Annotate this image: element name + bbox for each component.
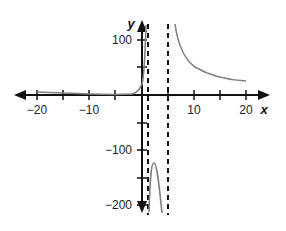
y-tick-label-100: 100 [112, 33, 132, 47]
x-tick-label-neg20: −20 [27, 103, 48, 117]
y-axis-down-arrow-icon [137, 201, 147, 213]
curve-middle-branch [149, 163, 162, 213]
x-axis-right-arrow-icon [258, 90, 270, 100]
rational-function-graph: −20 −10 10 20 x y 100 −100 −200 [0, 0, 286, 231]
y-axis: y 100 −100 −200 [105, 16, 147, 213]
y-tick-label-neg200: −200 [105, 198, 132, 212]
x-axis-label: x [259, 102, 268, 117]
y-tick-label-neg100: −100 [105, 143, 132, 157]
vertical-asymptotes [148, 24, 168, 215]
chart-canvas: −20 −10 10 20 x y 100 −100 −200 [0, 0, 286, 231]
x-tick-label-neg10: −10 [79, 103, 100, 117]
x-tick-label-20: 20 [239, 103, 253, 117]
curve-right-branch [175, 24, 246, 81]
x-axis-left-arrow-icon [14, 90, 26, 100]
x-tick-label-10: 10 [187, 103, 201, 117]
y-axis-label: y [126, 16, 135, 31]
